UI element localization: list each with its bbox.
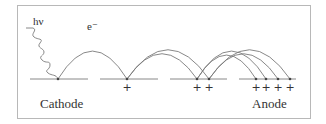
photon-label: hν — [33, 16, 43, 27]
ion-plus-marker: + — [285, 82, 294, 93]
photon-wave-icon — [26, 28, 58, 79]
impact-dot — [265, 78, 268, 81]
impact-dot — [277, 78, 280, 81]
electron-label: e⁻ — [87, 21, 98, 32]
electron-trajectories — [58, 50, 290, 79]
impact-dot — [255, 78, 258, 81]
electron-arc — [58, 51, 127, 79]
impact-dot — [126, 78, 129, 81]
ion-plus-marker: + — [261, 82, 270, 93]
impact-dot — [57, 78, 60, 81]
ion-plus-marker: + — [251, 82, 260, 93]
impact-dot — [208, 78, 211, 81]
anode-label: Anode — [252, 97, 287, 110]
ion-plus-marker: + — [122, 82, 131, 93]
cathode-label: Cathode — [40, 97, 83, 110]
impact-dot — [289, 78, 292, 81]
ion-plus-marker: + — [192, 82, 201, 93]
ion-plus-marker: + — [273, 82, 282, 93]
ion-plus-marker: + — [204, 82, 213, 93]
impact-dot — [196, 78, 199, 81]
